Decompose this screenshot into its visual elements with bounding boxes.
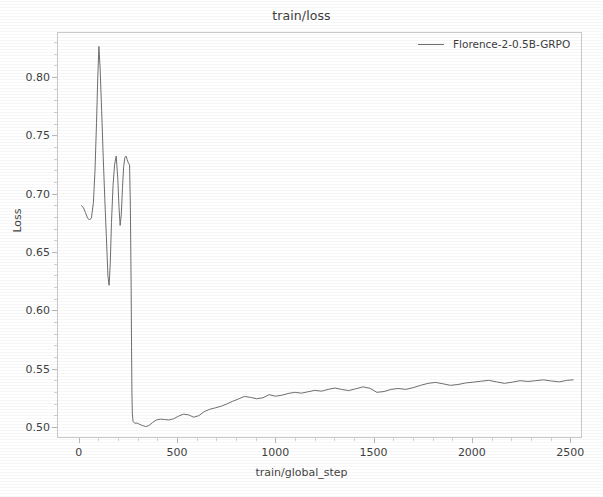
y-tick-label: 0.60 — [4, 304, 50, 317]
chart-figure: train/loss Loss train/global_step 0.500.… — [0, 0, 603, 497]
x-tick-label: 2500 — [540, 446, 600, 459]
series-line-florence-2-0-5b-grpo — [82, 46, 574, 426]
y-tick-label: 0.50 — [4, 420, 50, 433]
x-axis-label: train/global_step — [0, 466, 603, 479]
y-tick-label: 0.55 — [4, 362, 50, 375]
y-tick-label: 0.70 — [4, 187, 50, 200]
legend-line-swatch — [418, 44, 444, 45]
plot-area — [57, 32, 582, 438]
x-tick-label: 0 — [49, 446, 109, 459]
x-tick-label: 1000 — [245, 446, 305, 459]
y-tick-label: 0.65 — [4, 245, 50, 258]
chart-title: train/loss — [0, 8, 603, 23]
x-tick-label: 1500 — [344, 446, 404, 459]
x-tick-label: 2000 — [442, 446, 502, 459]
y-tick-label: 0.75 — [4, 129, 50, 142]
y-tick-label: 0.80 — [4, 70, 50, 83]
loss-line-chart — [58, 33, 583, 439]
chart-legend: Florence-2-0.5B-GRPO — [418, 38, 570, 50]
legend-label-florence-2-0-5b-grpo: Florence-2-0.5B-GRPO — [453, 38, 570, 50]
x-tick-label: 500 — [147, 446, 207, 459]
